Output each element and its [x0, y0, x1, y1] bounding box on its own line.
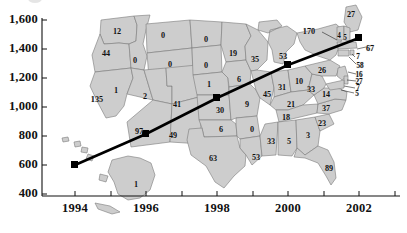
label-pa: 26	[318, 66, 326, 75]
label-tn: 18	[282, 113, 290, 122]
label-il: 45	[263, 90, 271, 99]
label-vt: 4	[337, 32, 341, 40]
xtick-1998: 1998	[189, 201, 245, 216]
data-point-1998	[213, 94, 220, 101]
label-ks: 30	[216, 106, 224, 115]
label-la: 53	[252, 153, 260, 162]
xtick-2000: 2000	[260, 201, 316, 216]
label-tx: 63	[209, 154, 217, 163]
label-mn: 19	[229, 49, 237, 58]
label-fl: 89	[325, 164, 333, 173]
label-me: 27	[347, 10, 355, 19]
state-mt	[146, 20, 192, 53]
label-va: 14	[322, 90, 330, 99]
label-ms: 33	[267, 137, 275, 146]
label-ca: 135	[91, 95, 103, 104]
state-md	[326, 80, 344, 90]
xtick-1996: 1996	[118, 201, 174, 216]
label-al: 5	[287, 137, 291, 146]
data-point-1994	[71, 161, 78, 168]
label-sd: 0	[204, 61, 208, 70]
label-ne: 1	[207, 80, 211, 89]
label-or: 44	[102, 49, 110, 58]
label-nd: 0	[204, 35, 208, 44]
state-ca	[90, 68, 133, 118]
label-dc: 5	[355, 90, 359, 98]
chart-figure: 1,600 1,400 1,200 1,000 800 600 400 1994…	[0, 0, 407, 233]
xtick-1994: 1994	[47, 201, 103, 216]
label-sc: 23	[318, 119, 326, 128]
us-map	[62, 5, 362, 214]
label-in: 31	[278, 83, 286, 92]
ytick-1200: 1,200	[0, 70, 38, 85]
label-ar: 0	[250, 125, 254, 134]
label-ia: 6	[237, 75, 241, 84]
ytick-600: 600	[0, 157, 38, 172]
ytick-400: 400	[0, 186, 38, 201]
label-mt: 0	[161, 31, 165, 40]
label-ri: 7	[356, 53, 360, 61]
label-ok: 6	[219, 125, 223, 134]
label-co: 41	[173, 100, 181, 109]
state-ct	[338, 50, 349, 56]
label-ga: 3	[306, 131, 310, 140]
label-ky: 21	[287, 100, 295, 109]
label-ct: 58	[356, 62, 363, 70]
ytick-1400: 1,400	[0, 41, 38, 56]
data-point-2002	[355, 34, 362, 41]
label-ma: 67	[366, 44, 374, 53]
label-id: 0	[133, 56, 137, 65]
label-oh: 10	[295, 77, 303, 86]
label-ak: 1	[134, 180, 138, 189]
ytick-1600: 1,600	[0, 12, 38, 27]
label-az: 97	[135, 127, 143, 136]
ytick-800: 800	[0, 128, 38, 143]
label-nv: 1	[114, 86, 118, 95]
ytick-1000: 1,000	[0, 99, 38, 114]
label-wy: 0	[168, 60, 172, 69]
label-mi: 53	[279, 52, 287, 61]
label-wi: 35	[251, 55, 259, 64]
xtick-2002: 2002	[331, 201, 387, 216]
state-ar	[236, 116, 260, 139]
label-nc: 37	[322, 104, 330, 113]
label-nm: 49	[169, 131, 177, 140]
data-point-2000	[284, 61, 291, 68]
label-ut: 2	[143, 92, 147, 101]
y-tick-marks	[42, 20, 47, 194]
label-ny: 170	[303, 27, 315, 36]
label-nh: 5	[343, 34, 347, 42]
label-wv: 33	[307, 85, 315, 94]
label-wa: 12	[113, 27, 121, 36]
label-mo: 9	[245, 100, 249, 109]
